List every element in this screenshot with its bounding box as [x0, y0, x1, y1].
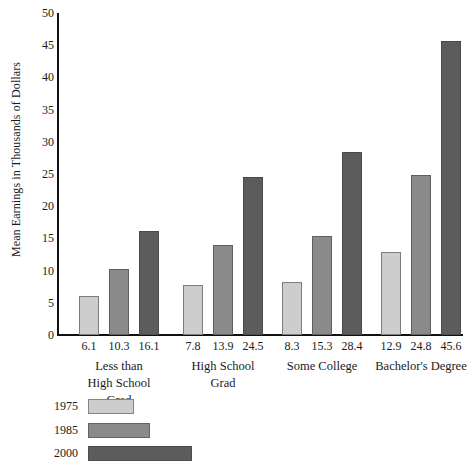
bar-value-label: 15.3	[312, 339, 333, 354]
y-tick-label: 40	[20, 71, 54, 83]
bar-chart: Mean Earnings in Thousands of Dollars 05…	[0, 0, 472, 465]
bar	[342, 152, 362, 335]
legend-item: 2000	[0, 443, 472, 464]
bar-value-label: 16.1	[139, 339, 160, 354]
bar	[312, 236, 332, 335]
bar-value-label: 45.6	[441, 339, 462, 354]
x-category-label: Bachelor's Degree	[375, 358, 466, 375]
bar	[183, 285, 203, 335]
bar	[243, 177, 263, 335]
legend-item: 1975	[0, 396, 472, 417]
y-tick-label: 35	[20, 104, 54, 116]
bar-value-label: 10.3	[109, 339, 130, 354]
legend-swatch	[88, 399, 134, 414]
bar	[139, 231, 159, 335]
bar-value-label: 6.1	[82, 339, 97, 354]
bar	[411, 175, 431, 335]
y-tick-label: 50	[20, 7, 54, 19]
bar	[282, 282, 302, 335]
bar-value-label: 24.8	[411, 339, 432, 354]
bar-value-label: 12.9	[381, 339, 402, 354]
bar	[79, 296, 99, 335]
x-category-label: Some College	[287, 358, 357, 375]
y-tick-label: 25	[20, 168, 54, 180]
bar-value-label: 28.4	[342, 339, 363, 354]
legend-label: 2000	[18, 443, 78, 464]
bar-value-label: 8.3	[285, 339, 300, 354]
y-tick-label: 0	[20, 329, 54, 341]
chart-legend: 197519852000	[0, 396, 472, 465]
x-category-label: High SchoolGrad	[192, 358, 255, 392]
bar	[441, 41, 461, 335]
y-tick-label: 15	[20, 232, 54, 244]
bar-value-label: 13.9	[213, 339, 234, 354]
bar-value-label: 7.8	[186, 339, 201, 354]
legend-swatch	[88, 423, 150, 438]
bar-value-label: 24.5	[243, 339, 264, 354]
y-tick-label: 5	[20, 297, 54, 309]
bar	[109, 269, 129, 335]
legend-label: 1985	[18, 420, 78, 441]
y-tick-label: 20	[20, 200, 54, 212]
y-axis-tick-labels: 05101520253035404550	[14, 0, 54, 340]
legend-item: 1985	[0, 420, 472, 441]
bar	[213, 245, 233, 335]
y-tick-label: 30	[20, 136, 54, 148]
y-tick-label: 45	[20, 39, 54, 51]
legend-swatch	[88, 446, 192, 461]
y-tick-label: 10	[20, 265, 54, 277]
plot-area	[57, 13, 463, 335]
legend-label: 1975	[18, 396, 78, 417]
bar	[381, 252, 401, 335]
